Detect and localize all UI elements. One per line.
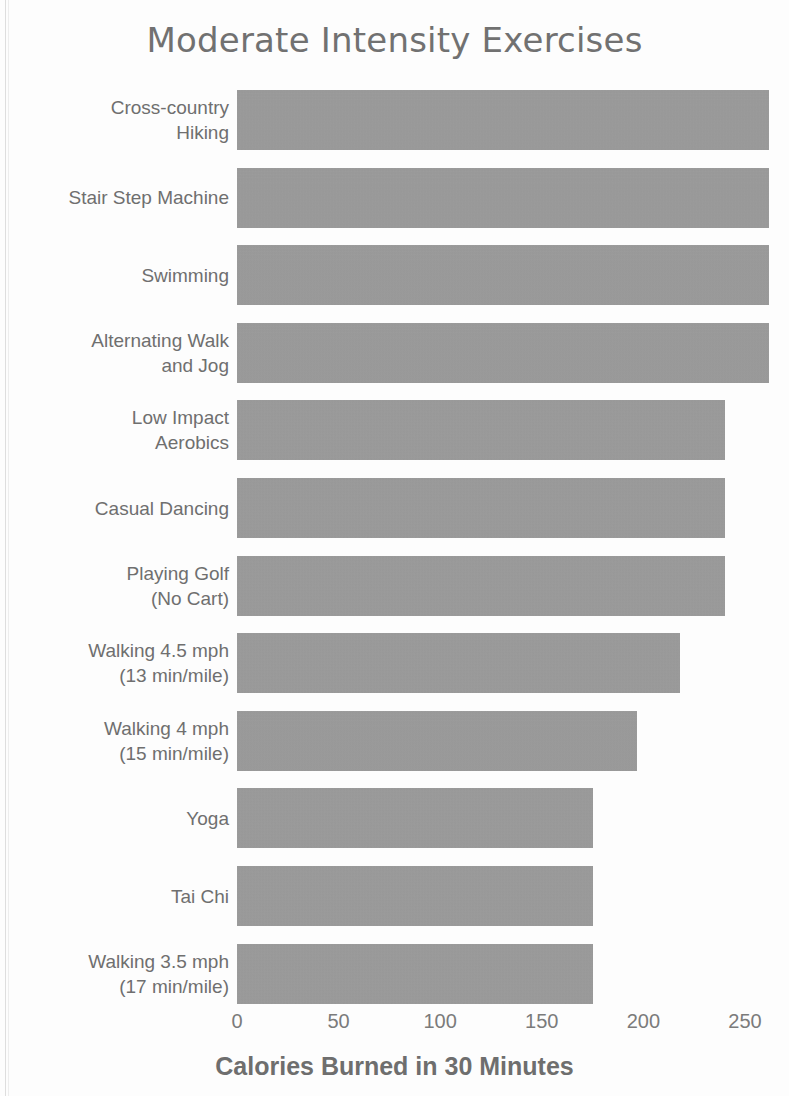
bar-row: Stair Step Machine (0, 168, 789, 228)
category-label: Cross-country Hiking (9, 95, 229, 145)
bar (237, 478, 725, 538)
bar-row: Swimming (0, 245, 789, 305)
bar (237, 711, 637, 771)
x-tick-label: 0 (231, 1010, 242, 1033)
x-axis-title: Calories Burned in 30 Minutes (0, 1052, 789, 1081)
category-label: Low Impact Aerobics (9, 405, 229, 455)
bar-row: Cross-country Hiking (0, 90, 789, 150)
bar (237, 168, 769, 228)
category-label: Alternating Walk and Jog (9, 328, 229, 378)
bar (237, 633, 680, 693)
category-label: Yoga (9, 806, 229, 831)
bar (237, 323, 769, 383)
bar-row: Low Impact Aerobics (0, 400, 789, 460)
bar-row: Walking 4 mph (15 min/mile) (0, 711, 789, 771)
bar-row: Playing Golf (No Cart) (0, 556, 789, 616)
bar-row: Alternating Walk and Jog (0, 323, 789, 383)
category-label: Playing Golf (No Cart) (9, 561, 229, 611)
x-tick-label: 150 (525, 1010, 558, 1033)
category-label: Walking 3.5 mph (17 min/mile) (9, 949, 229, 999)
bar (237, 556, 725, 616)
chart-page: Moderate Intensity Exercises Cross-count… (0, 0, 789, 1096)
bar-row: Tai Chi (0, 866, 789, 926)
bar-row: Walking 3.5 mph (17 min/mile) (0, 944, 789, 1004)
bar-row: Casual Dancing (0, 478, 789, 538)
bar-row: Walking 4.5 mph (13 min/mile) (0, 633, 789, 693)
bar (237, 866, 593, 926)
bar (237, 245, 769, 305)
x-tick-label: 250 (728, 1010, 761, 1033)
bar-chart-plot-area: Cross-country HikingStair Step MachineSw… (0, 0, 789, 1096)
bar (237, 788, 593, 848)
category-label: Casual Dancing (9, 496, 229, 521)
bar (237, 90, 769, 150)
category-label: Tai Chi (9, 884, 229, 909)
category-label: Swimming (9, 263, 229, 288)
bar (237, 944, 593, 1004)
x-tick-label: 50 (327, 1010, 349, 1033)
category-label: Walking 4.5 mph (13 min/mile) (9, 638, 229, 688)
category-label: Walking 4 mph (15 min/mile) (9, 716, 229, 766)
bar-row: Yoga (0, 788, 789, 848)
x-tick-label: 200 (627, 1010, 660, 1033)
category-label: Stair Step Machine (9, 185, 229, 210)
x-tick-label: 100 (424, 1010, 457, 1033)
bar (237, 400, 725, 460)
